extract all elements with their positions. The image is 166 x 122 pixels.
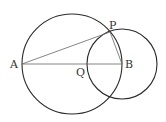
label-a: A [9, 58, 19, 71]
label-q: Q [76, 66, 85, 79]
segment-pb [110, 32, 122, 64]
label-p: P [109, 19, 117, 32]
segment-ap [22, 32, 110, 64]
geometry-diagram: A B P Q [0, 0, 166, 122]
label-b: B [125, 58, 133, 71]
